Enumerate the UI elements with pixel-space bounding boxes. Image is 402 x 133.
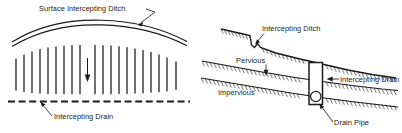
label-surface-intercepting-ditch: Surface Intercepting Ditch (39, 4, 125, 13)
engineering-diagram: Surface Intercepting Ditch (0, 0, 402, 133)
label-intercepting-drain-section: Intercepting Drain (340, 75, 399, 84)
drain-pipe-circle (311, 91, 321, 101)
label-drain-pipe: Drain Pipe (334, 118, 369, 127)
label-impervious: Impervious (218, 88, 255, 97)
label-intercepting-drain-plan: Intercepting Drain (54, 112, 113, 121)
label-intercepting-ditch-section: Intercepting Ditch (262, 24, 320, 33)
intercepting-drain-trench (309, 63, 323, 105)
label-pervious: Pervious (236, 56, 265, 65)
diagram-canvas: Surface Intercepting Ditch (0, 0, 402, 133)
